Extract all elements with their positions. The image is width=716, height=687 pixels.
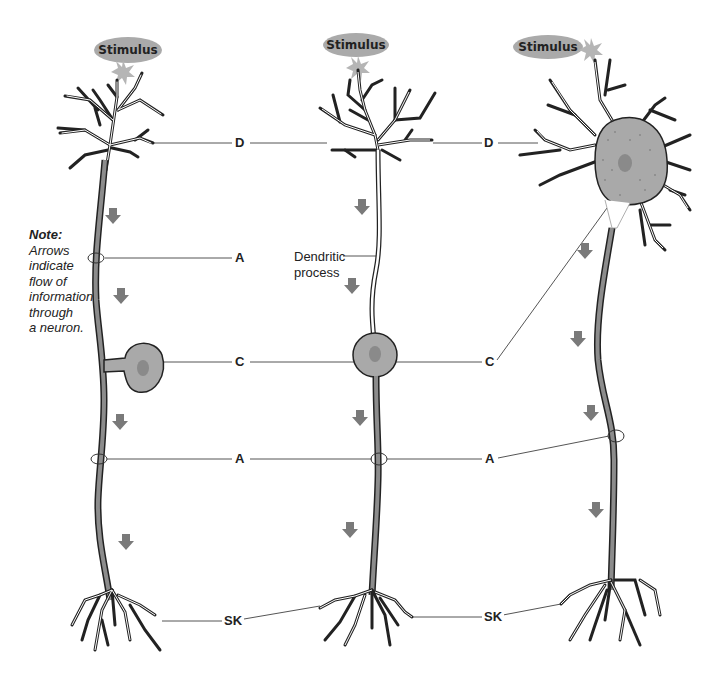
note-line: Arrows <box>29 243 93 259</box>
note-box: Note: Arrows indicate flow of informatio… <box>29 227 93 336</box>
label-dendrite-1: D <box>233 136 246 150</box>
neuron-diagram <box>0 0 716 687</box>
dendritic-process-line-1: Dendritic <box>294 249 345 265</box>
label-dendrite-2: D <box>482 136 495 150</box>
stimulus-label-left: Stimulus <box>93 43 163 57</box>
note-line: through <box>29 305 93 321</box>
note-line: indicate <box>29 258 93 274</box>
middle-neuron <box>320 33 435 645</box>
leader-lines <box>105 143 609 621</box>
label-axon-1: A <box>233 452 246 466</box>
stimulus-label-middle: Stimulus <box>321 38 391 52</box>
note-line: a neuron. <box>29 320 93 336</box>
label-cell-body-2: C <box>483 355 496 369</box>
label-synaptic-knob-1: SK <box>222 614 244 628</box>
note-title: Note: <box>29 227 93 243</box>
stimulus-label-right: Stimulus <box>513 40 583 54</box>
note-line: flow of <box>29 274 93 290</box>
note-line: information <box>29 289 93 305</box>
label-cell-body-1: C <box>233 355 246 369</box>
label-synaptic-knob-2: SK <box>482 610 504 624</box>
label-axon-2: A <box>483 452 496 466</box>
dendritic-process-label: Dendritic process <box>294 249 345 281</box>
right-neuron <box>513 35 690 645</box>
dendritic-process-line-2: process <box>294 265 345 281</box>
label-axon-top: A <box>233 251 246 265</box>
left-neuron <box>58 37 163 650</box>
